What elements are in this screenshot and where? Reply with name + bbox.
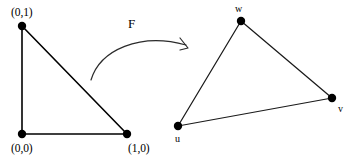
vertex-dot-unit-y (18, 22, 26, 30)
label-vertex-w: w (235, 4, 242, 14)
label-map-function: F (128, 17, 135, 30)
edge-w-v (241, 21, 332, 98)
vertex-dot-w (237, 17, 245, 25)
edge-v-u (178, 98, 332, 126)
vertex-dot-unit-x (123, 130, 131, 138)
target-triangle-vertices (174, 17, 336, 130)
label-vertex-origin: (0,0) (11, 143, 33, 155)
edge-u-w (178, 21, 241, 126)
label-vertex-u: u (175, 134, 180, 144)
label-vertex-unit-y: (0,1) (11, 7, 33, 19)
label-vertex-unit-x: (1,0) (128, 143, 150, 155)
map-arrow-group (91, 38, 188, 80)
vertex-dot-v (328, 94, 336, 102)
map-arc-path (91, 41, 186, 80)
target-triangle-edges (178, 21, 332, 126)
source-triangle-edges (22, 26, 127, 134)
edge-unit-x-unit-y (22, 26, 127, 134)
diagram-canvas: (0,1) (0,0) (1,0) F w v u (0, 0, 355, 161)
vertex-dot-origin (18, 130, 26, 138)
label-vertex-v: v (338, 104, 343, 114)
vertex-dot-u (174, 122, 182, 130)
